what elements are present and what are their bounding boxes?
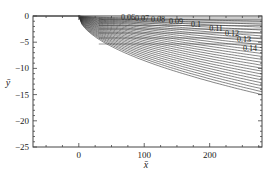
y-tick-label: −5	[19, 37, 29, 47]
y-tick-label: 0	[25, 11, 30, 21]
contour-lines	[33, 16, 262, 95]
x-axis-label: x̄	[143, 159, 149, 170]
contour-label: 0.14	[243, 44, 257, 53]
y-tick-label: −15	[15, 90, 30, 100]
contour-label: 0.13	[237, 35, 251, 44]
contour-label: 0.11	[209, 24, 223, 33]
contour-plot: 0.060.070.080.090.10.110.120.130.14 0100…	[0, 0, 272, 180]
contour-label: 0.09	[169, 17, 183, 26]
y-axis-label: ȳ	[5, 77, 11, 88]
contour-chart: 0.060.070.080.090.10.110.120.130.14 0100…	[0, 0, 272, 180]
contour-label: 0.07	[135, 14, 149, 23]
y-tick-label: −25	[15, 142, 30, 152]
contour-label: 0.1	[191, 20, 201, 29]
y-tick-label: −20	[15, 116, 30, 126]
x-tick-label: 0	[77, 150, 82, 160]
x-tick-label: 200	[203, 150, 217, 160]
y-tick-label: −10	[15, 63, 30, 73]
